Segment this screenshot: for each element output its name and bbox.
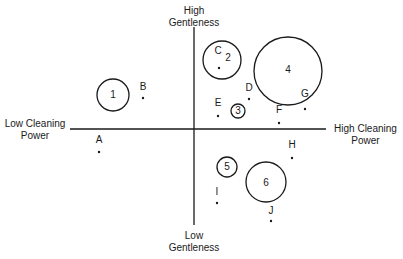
left-axis-label-line2: Power [0, 130, 70, 142]
point-F: F [276, 104, 282, 124]
point-I: I [216, 186, 219, 204]
point-label: D [245, 82, 252, 93]
point-dot [142, 97, 144, 99]
point-B: B [140, 81, 147, 99]
point-dot [248, 98, 250, 100]
bubble-number: 4 [285, 64, 291, 75]
right-axis-label-line2: Power [328, 135, 403, 147]
point-label: G [301, 88, 309, 99]
point-dot [278, 122, 280, 124]
bubble-6: 6 [246, 162, 286, 202]
top-axis-label: High Gentleness [164, 5, 224, 29]
point-H: H [288, 139, 295, 159]
point-label: E [215, 97, 222, 108]
point-J: J [269, 205, 274, 222]
point-dot [98, 151, 100, 153]
point-label: F [276, 104, 282, 115]
bubble-circle [203, 41, 241, 79]
left-axis-label-line1: Low Cleaning [0, 118, 70, 130]
bottom-axis-label: Low Gentleness [164, 230, 224, 254]
points-layer: ABCDEFGHIJ [96, 45, 309, 222]
bubble-number: 3 [235, 105, 241, 116]
top-axis-label-line1: High [164, 5, 224, 17]
circles-layer: 123456 [97, 37, 322, 202]
bubble-3: 3 [231, 104, 245, 118]
right-axis-label: High Cleaning Power [328, 123, 403, 147]
point-label: B [140, 81, 147, 92]
bubble-4: 4 [254, 37, 322, 105]
point-dot [304, 108, 306, 110]
point-label: H [288, 139, 295, 150]
bottom-axis-label-line2: Gentleness [164, 242, 224, 254]
point-label: I [216, 186, 219, 197]
point-E: E [215, 97, 222, 117]
bubble-1: 1 [97, 79, 129, 111]
point-label: A [96, 134, 103, 145]
point-A: A [96, 134, 103, 153]
point-dot [217, 115, 219, 117]
bubble-number: 2 [225, 52, 231, 63]
bubble-number: 5 [224, 161, 230, 172]
bubble-number: 6 [263, 177, 269, 188]
point-dot [216, 202, 218, 204]
bubble-2: 2 [203, 41, 241, 79]
left-axis-label: Low Cleaning Power [0, 118, 70, 142]
bottom-axis-label-line1: Low [164, 230, 224, 242]
point-dot [291, 157, 293, 159]
point-C: C [214, 45, 221, 69]
point-label: C [214, 45, 221, 56]
right-axis-label-line1: High Cleaning [328, 123, 403, 135]
point-D: D [245, 82, 252, 100]
point-dot [270, 220, 272, 222]
bubble-number: 1 [110, 89, 116, 100]
bubble-5: 5 [217, 157, 237, 177]
top-axis-label-line2: Gentleness [164, 17, 224, 29]
point-dot [218, 67, 220, 69]
point-label: J [269, 205, 274, 216]
